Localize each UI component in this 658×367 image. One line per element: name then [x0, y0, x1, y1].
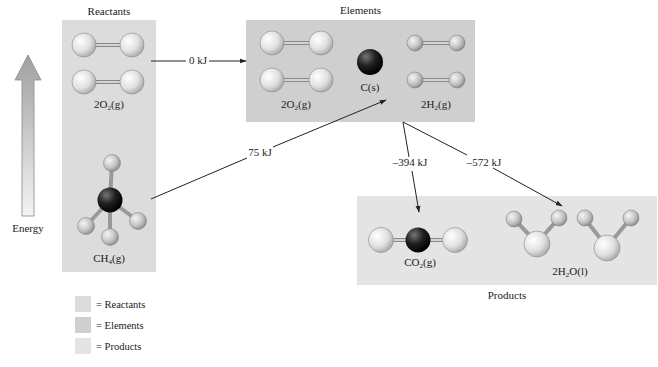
element-h2-label: 2H2(g)	[406, 98, 466, 112]
element-c-label: C(s)	[350, 81, 390, 93]
product-h2o-label: 2H2O(l)	[540, 265, 600, 279]
arrow-label-75kj: 75 kJ	[245, 146, 275, 158]
reactant-o2-label: 2O2(g)	[62, 98, 156, 112]
legend-elements: = Elements	[75, 317, 144, 333]
legend-swatch-products	[75, 338, 91, 354]
legend-swatch-reactants	[75, 296, 91, 312]
product-co2-label: CO2(g)	[390, 256, 450, 270]
reactant-o2-molecules	[72, 33, 144, 94]
product-co2-molecule	[369, 228, 468, 253]
legend-label-products: = Products	[96, 341, 141, 352]
reactant-ch4-molecule	[78, 155, 147, 246]
arrow-label-394kj: –394 kJ	[390, 156, 430, 168]
legend-reactants: = Reactants	[75, 296, 145, 312]
legend-label-reactants: = Reactants	[96, 299, 145, 310]
arrow-label-572kj: –572 kJ	[464, 156, 504, 168]
element-carbon-atom	[357, 49, 383, 75]
element-o2-label: 2O2(g)	[266, 98, 326, 112]
arrow-label-0kj: 0 kJ	[186, 54, 210, 66]
legend-label-elements: = Elements	[96, 320, 144, 331]
legend-swatch-elements	[75, 317, 91, 333]
legend-products: = Products	[75, 338, 141, 354]
product-h2o-molecules	[506, 210, 639, 261]
energy-arrow-icon	[15, 55, 41, 216]
element-o2-molecules	[260, 31, 333, 92]
energy-axis-label: Energy	[8, 222, 48, 234]
element-h2-molecules	[407, 35, 465, 88]
reactant-ch4-label: CH4(g)	[62, 252, 156, 266]
